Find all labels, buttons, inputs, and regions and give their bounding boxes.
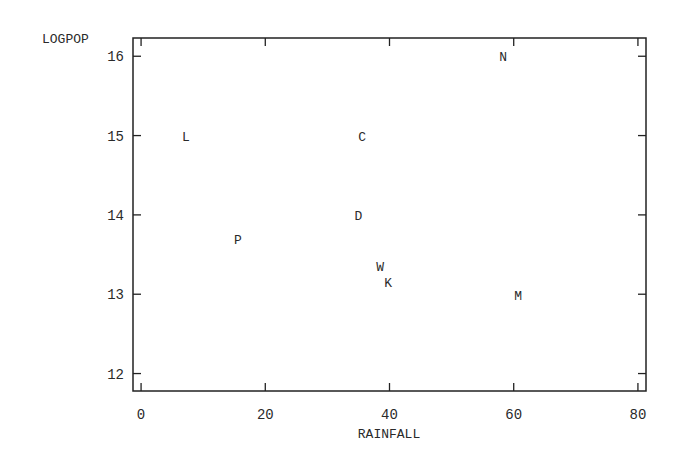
data-point-c: C: [358, 130, 366, 145]
x-tick-labels: 020406080: [137, 407, 646, 423]
x-tick-label: 80: [630, 407, 647, 423]
x-tick-label: 40: [381, 407, 398, 423]
y-tick-label: 12: [107, 367, 124, 383]
y-tick-labels: 1213141516: [107, 49, 124, 382]
x-tick-label: 20: [257, 407, 274, 423]
y-tick-label: 15: [107, 129, 124, 145]
x-tick-label: 60: [505, 407, 522, 423]
data-point-m: M: [514, 289, 522, 304]
data-points: LCNDPWKM: [182, 50, 522, 304]
plot-area-border: [133, 38, 646, 391]
data-point-d: D: [355, 209, 363, 224]
data-point-p: P: [234, 233, 242, 248]
y-tick-label: 14: [107, 208, 124, 224]
data-point-w: W: [376, 260, 384, 275]
plot-frame: [133, 38, 646, 391]
y-tick-label: 13: [107, 287, 124, 303]
x-axis-label: RAINFALL: [358, 427, 420, 442]
data-point-n: N: [499, 50, 507, 65]
axis-ticks: [133, 38, 646, 391]
data-point-k: K: [384, 276, 392, 291]
y-tick-label: 16: [107, 49, 124, 65]
data-point-l: L: [182, 130, 190, 145]
x-tick-label: 0: [137, 407, 145, 423]
scatter-plot: 020406080 1213141516 LOGPOP RAINFALL LCN…: [0, 0, 675, 457]
y-axis-label: LOGPOP: [42, 32, 89, 47]
